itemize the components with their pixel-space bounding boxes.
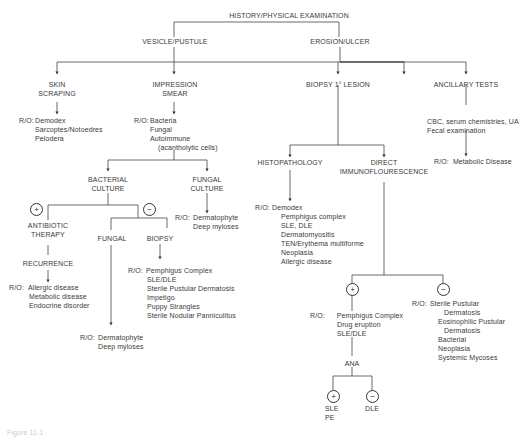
ana-positive-results: SLEPE: [325, 404, 339, 422]
history-physical-exam-node: HISTORY/PHYSICAL EXAMINATION: [204, 11, 374, 20]
dif-negative-ruleouts: Sterile PustularDermatosisEosinophilic P…: [430, 299, 505, 362]
positive-result-icon: +: [30, 203, 43, 216]
ancillary-test-list: CBC, serum chemistries, UAFecal examinat…: [427, 117, 519, 135]
erosion-ulcer-node: EROSION/ULCER: [300, 37, 380, 46]
negative-result-icon: −: [143, 203, 156, 216]
biopsy-ruleouts: Pemphigus ComplexSLE/DLESterile Pustular…: [147, 266, 236, 320]
histopathology-ruleouts: DemodexPemphigus complexSLE, DLEDermatom…: [281, 203, 364, 266]
bacterial-culture-node: BACTERIALCULTURE: [78, 175, 138, 193]
impression-smear-node: IMPRESSIONSMEAR: [140, 80, 210, 98]
ro-label: R/O:: [412, 299, 427, 308]
impression-smear-ruleouts: BacteriaFungalAutoimmune(acantholytic ce…: [150, 116, 218, 152]
direct-immunofluorescence-node: DIRECTIMMUNOFLOURESCENCE: [338, 158, 430, 176]
negative-result-icon: −: [366, 390, 379, 403]
positive-result-icon: +: [346, 283, 359, 296]
fungal-node: FUNGAL: [90, 234, 134, 243]
vesicle-pustule-node: VESICLE/PUSTULE: [125, 37, 225, 46]
dif-positive-ruleouts: Pemphigus ComplexDrug eruptionSLE/DLE: [325, 311, 415, 338]
ro-label: R/O:: [255, 203, 270, 212]
negative-result-icon: −: [437, 283, 450, 296]
positive-result-icon: +: [327, 390, 340, 403]
ro-label: R/O:: [9, 283, 24, 292]
fungal-ruleouts: DermatophyteDeep myloses: [98, 333, 144, 351]
ro-label: R/O:: [80, 333, 95, 342]
fungal-culture-ruleouts: DermatophyteDeep myloses: [193, 213, 239, 231]
skin-scraping-ruleouts: DemodexSarcoptes/NotoedresPelodera: [35, 116, 103, 143]
histopathology-node: HISTOPATHOLOGY: [250, 158, 330, 167]
figure-caption: Figure 11-1: [7, 428, 43, 437]
biopsy-node: BIOPSY: [140, 234, 180, 243]
recurrence-node: RECURRENCE: [18, 259, 78, 268]
antibiotic-ruleouts: Allergic diseaseMetabolic diseaseEndocri…: [29, 283, 90, 310]
fungal-culture-node: FUNGALCULTURE: [180, 175, 234, 193]
ro-label: R/O:: [175, 213, 190, 222]
ro-label: R/O:: [310, 311, 325, 320]
antibiotic-therapy-node: ANTIBIOTICTHERAPY: [18, 221, 78, 239]
ancillary-tests-node: ANCILLARY TESTS: [426, 80, 506, 89]
biopsy-lesion-node: BIOPSY 1° LESION: [293, 80, 383, 89]
ana-node: ANA: [337, 359, 367, 368]
ro-label: R/O:: [128, 266, 143, 275]
ana-negative-results: DLE: [365, 404, 379, 413]
ro-label: R/O:: [19, 116, 34, 125]
ancillary-ruleouts: R/O: Metabolic Disease: [434, 157, 512, 166]
skin-scraping-node: SKINSCRAPING: [27, 80, 87, 98]
ro-label: R/O:: [134, 116, 149, 125]
